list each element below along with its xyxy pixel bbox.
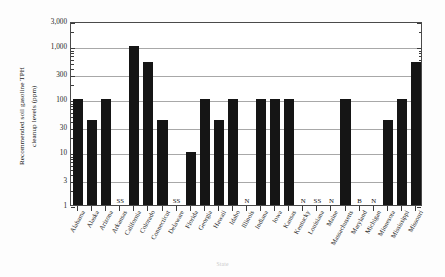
bar[interactable] (228, 99, 238, 205)
axis-minor-tick (419, 60, 422, 61)
y-axis-tick-labels: 1310301003001,0003,000 (40, 18, 70, 214)
x-axis-title: State (0, 261, 445, 267)
y-axis-tick-label: 3 (63, 177, 67, 185)
axis-major-tick (71, 48, 75, 49)
axis-minor-tick (419, 32, 422, 33)
bar-annotation: N (367, 197, 381, 204)
axis-minor-tick (71, 85, 74, 86)
bar[interactable] (129, 46, 139, 205)
x-axis-tick-label: Alabama (68, 209, 86, 234)
bar[interactable] (270, 99, 280, 205)
gridline (71, 76, 421, 77)
axis-major-tick (417, 48, 421, 49)
bar[interactable] (256, 99, 266, 205)
bar-annotation: SS (310, 197, 324, 204)
axis-minor-tick (71, 64, 74, 65)
axis-minor-tick (71, 60, 74, 61)
bar[interactable] (186, 152, 196, 205)
axis-major-tick (71, 23, 75, 24)
y-axis-title-line-1: Recommended soil gasoline TPH (16, 18, 28, 214)
x-axis-tick-label: Hawaii (211, 209, 227, 229)
bar[interactable] (157, 120, 167, 205)
y-axis-title-line-2: cleanup levels (ppm) (28, 18, 40, 214)
y-axis-tick-label: 10 (60, 149, 67, 157)
axis-minor-tick (71, 53, 74, 54)
axis-minor-tick (419, 56, 422, 57)
gridline (71, 129, 421, 130)
bar[interactable] (284, 99, 294, 205)
bar[interactable] (340, 99, 350, 205)
x-axis-tick-label: Iowa (271, 209, 284, 224)
axis-minor-tick (71, 56, 74, 57)
y-axis-tick-label: 100 (56, 96, 67, 104)
bar[interactable] (214, 120, 224, 205)
bar[interactable] (73, 99, 83, 205)
plot-area: SSSSNNSSNBN (70, 22, 422, 206)
gridline (71, 101, 421, 102)
bar[interactable] (397, 99, 407, 205)
axis-minor-tick (71, 51, 74, 52)
y-axis-title: Recommended soil gasoline TPH cleanup le… (16, 18, 40, 214)
bar[interactable] (87, 120, 97, 205)
y-axis-tick-label: 1 (63, 202, 67, 210)
y-axis-tick-label: 3,000 (51, 18, 67, 26)
bar-annotation: N (296, 197, 310, 204)
axis-minor-tick (71, 69, 74, 70)
gridline (71, 48, 421, 49)
gridline (71, 154, 421, 155)
x-axis-tick-label: Idaho (228, 209, 242, 226)
bar[interactable] (143, 62, 153, 205)
bar[interactable] (411, 62, 421, 205)
axis-major-tick (71, 76, 75, 77)
y-axis-tick-label: 30 (60, 124, 67, 132)
bar-annotation: B (353, 197, 367, 204)
axis-minor-tick (419, 51, 422, 52)
axis-minor-tick (419, 53, 422, 54)
x-axis-tick-label: Indiana (253, 209, 269, 230)
bar[interactable] (101, 99, 111, 205)
bar-annotation: N (240, 197, 254, 204)
y-axis-tick-label: 1,000 (51, 43, 67, 51)
bar-annotation: SS (113, 197, 127, 204)
gridline (71, 182, 421, 183)
bar[interactable] (383, 120, 393, 205)
bar-annotation: N (324, 197, 338, 204)
chart-figure: Recommended soil gasoline TPH cleanup le… (0, 0, 445, 277)
y-axis-tick-label: 300 (56, 71, 67, 79)
x-axis-tick-label: Maine (325, 209, 339, 227)
bar[interactable] (200, 99, 210, 205)
axis-major-tick (417, 23, 421, 24)
bar-annotation: SS (170, 197, 184, 204)
axis-minor-tick (71, 32, 74, 33)
